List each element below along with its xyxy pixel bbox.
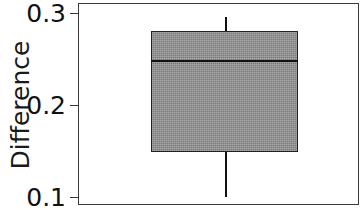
boxplot-figure: Difference 0.3 0.2 0.1 <box>0 0 361 210</box>
whisker-upper <box>225 17 227 32</box>
y-tick-label-0.2: 0.2 <box>4 93 66 118</box>
y-tick-mark-0.3 <box>70 13 78 14</box>
median-line <box>151 60 298 62</box>
y-tick-mark-0.2 <box>70 105 78 106</box>
box-iqr <box>151 31 298 152</box>
whisker-lower <box>225 152 227 197</box>
y-tick-label-0.3: 0.3 <box>4 1 66 26</box>
y-tick-mark-0.1 <box>70 197 78 198</box>
boxplot-series <box>79 4 358 204</box>
y-tick-label-0.1: 0.1 <box>4 185 66 210</box>
plot-area <box>78 3 359 205</box>
y-tick-label-group: 0.3 0.2 0.1 <box>0 0 66 210</box>
